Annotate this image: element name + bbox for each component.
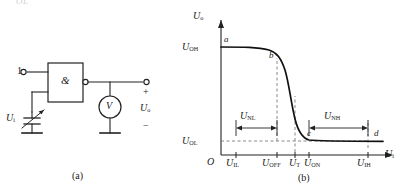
voltage-transfer-curve bbox=[221, 47, 383, 141]
x-tick-label-uil: UIL bbox=[226, 157, 239, 168]
x-tick-uih-subscript: IH bbox=[364, 161, 371, 168]
voltmeter-symbol: V bbox=[106, 100, 112, 111]
curve-point-d: d bbox=[374, 128, 379, 138]
y-tick-uol-subscript: OL bbox=[189, 139, 197, 146]
curve-point-c: c bbox=[307, 128, 311, 138]
x-tick-uil-subscript: IL bbox=[233, 161, 239, 168]
y-tick-label-uol: UOL bbox=[182, 135, 197, 146]
output-inversion-bubble bbox=[83, 79, 88, 84]
x-tick-label-uoff: UOFF bbox=[262, 157, 281, 168]
unl-arrowhead-left bbox=[236, 126, 242, 131]
y-axis-label: Uo bbox=[193, 10, 203, 21]
x-axis-label: Ui bbox=[385, 148, 394, 159]
origin-label: O bbox=[207, 156, 214, 167]
curve-point-b: b bbox=[269, 50, 274, 60]
caption-panel-b: (b) bbox=[298, 172, 310, 183]
input-terminal-number: 1 bbox=[17, 65, 22, 76]
source-voltage-subscript: i bbox=[13, 116, 15, 123]
nand-gate-symbol: & bbox=[61, 74, 70, 86]
noise-margin-label-unl: UNL bbox=[240, 110, 255, 121]
output-voltage-label: Uo bbox=[140, 102, 150, 113]
y-axis-arrowhead bbox=[218, 20, 224, 28]
source-voltage-label: Ui bbox=[6, 112, 15, 123]
polarity-minus-sign: − bbox=[143, 120, 149, 131]
curve-point-a: a bbox=[224, 34, 229, 44]
figure-container: OL bbox=[0, 0, 407, 195]
polarity-plus-sign: + bbox=[143, 86, 149, 97]
x-tick-uoff-subscript: OFF bbox=[269, 161, 280, 168]
x-tick-label-uih: UIH bbox=[357, 157, 371, 168]
circuit-diagram-panel-a bbox=[0, 0, 203, 195]
x-tick-label-uon: UON bbox=[304, 157, 320, 168]
x-tick-label-ut: UT bbox=[289, 157, 300, 168]
noise-margin-label-unh: UNH bbox=[324, 110, 340, 121]
output-voltage-subscript: o bbox=[147, 106, 150, 113]
unl-subscript: NL bbox=[247, 114, 255, 121]
unl-arrowhead-right bbox=[271, 126, 277, 131]
unh-subscript: NH bbox=[331, 114, 340, 121]
x-tick-uon-subscript: ON bbox=[311, 161, 320, 168]
caption-panel-a: (a) bbox=[72, 170, 83, 181]
output-terminal-circle bbox=[144, 79, 149, 84]
y-tick-uoh-subscript: OH bbox=[189, 45, 198, 52]
x-tick-ut-subscript: T bbox=[296, 161, 300, 168]
x-axis-subscript: i bbox=[392, 152, 394, 159]
unh-arrowhead-right bbox=[362, 126, 368, 131]
y-tick-label-uoh: UOH bbox=[182, 41, 198, 52]
y-axis-subscript: o bbox=[200, 14, 203, 21]
